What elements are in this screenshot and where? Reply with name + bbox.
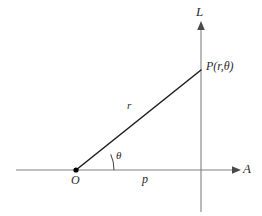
polar-coordinate-diagram: L A P(r,θ) O θ p r <box>0 0 262 216</box>
vertical-axis-label: L <box>196 5 203 18</box>
radius-ray-line <box>76 70 201 170</box>
point-p-label: P(r,θ) <box>206 60 234 72</box>
angle-arc <box>111 154 114 170</box>
horizontal-axis-arrowhead-icon <box>232 166 241 174</box>
horizontal-axis-label: A <box>243 162 251 175</box>
radius-label: r <box>127 100 131 111</box>
vertical-axis-arrowhead-icon <box>197 21 205 30</box>
origin-point-dot <box>73 167 78 172</box>
polar-axis-segment-label: p <box>142 173 148 185</box>
angle-theta-label: θ <box>116 150 121 161</box>
origin-label: O <box>71 174 80 186</box>
